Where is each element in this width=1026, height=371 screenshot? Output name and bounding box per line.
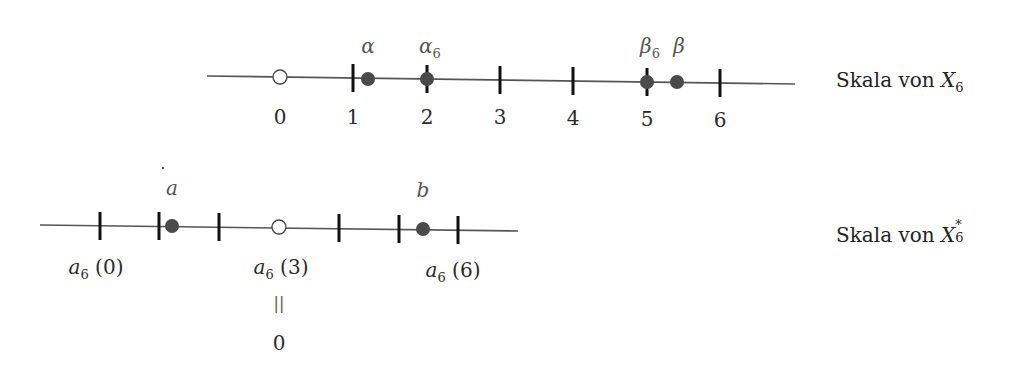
a6-3-label: a6 (3)	[254, 257, 309, 281]
a6-6-label: a6 (6)	[426, 260, 481, 284]
tick-label-4: 4	[567, 108, 580, 128]
b-dot	[416, 222, 430, 236]
origin-open-circle	[273, 70, 287, 84]
tick-label-1: 1	[347, 107, 360, 127]
a-label: a	[166, 178, 178, 198]
top-scale	[207, 64, 795, 97]
tick-label-3: 3	[494, 107, 507, 127]
stray-speck	[162, 167, 164, 169]
a6-3-open-circle	[272, 220, 286, 234]
a6-0-label: a6 (0)	[69, 257, 124, 281]
a-dot	[165, 219, 179, 233]
tick-label-5: 5	[641, 109, 654, 129]
beta6-label: β6	[640, 36, 660, 60]
alpha-dot	[361, 72, 375, 86]
beta-dot	[670, 75, 684, 89]
bottom-scale	[40, 167, 518, 244]
zero-label: 0	[273, 333, 286, 353]
beta6-dot	[640, 75, 654, 89]
top-scale-title: Skala von X6	[836, 70, 964, 94]
beta-label: β	[673, 36, 685, 56]
tick-label-6: 6	[714, 110, 727, 130]
alpha6-dot	[420, 72, 434, 86]
tick-label-2: 2	[421, 107, 434, 127]
number-lines-diagram	[0, 0, 1026, 371]
equals-sign-vertical: ||	[274, 296, 285, 312]
bottom-scale-title: Skala von X*6	[836, 222, 965, 245]
alpha6-label: α6	[419, 36, 441, 60]
b-label: b	[417, 180, 430, 200]
alpha-label: α	[361, 36, 375, 56]
origin-label: 0	[274, 107, 287, 127]
